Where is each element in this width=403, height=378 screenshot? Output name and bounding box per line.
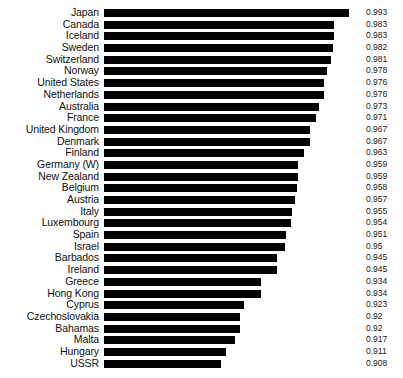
bar-value-label: 0.957 (366, 194, 403, 206)
bar-value-label: 0.971 (366, 112, 403, 124)
bar-track (104, 241, 403, 253)
bar (104, 325, 240, 333)
bar-category-label: Spain (0, 229, 99, 241)
bar-value-label: 0.967 (366, 136, 403, 148)
bar-track (104, 112, 403, 124)
bar (104, 196, 295, 204)
bar-value-label: 0.967 (366, 124, 403, 136)
bar (104, 231, 286, 239)
bar-track (104, 101, 403, 113)
bar-value-label: 0.983 (366, 19, 403, 31)
bar-category-label: Austria (0, 194, 99, 206)
bar-value-label: 0.973 (366, 101, 403, 113)
bar-chart: Japan0.993Canada0.983Iceland0.983Sweden0… (0, 0, 403, 378)
bar (104, 313, 240, 321)
bar-value-label: 0.934 (366, 276, 403, 288)
bar-row: Hungary0.911 (0, 346, 403, 358)
bar-track (104, 311, 403, 323)
bar-track (104, 217, 403, 229)
bar (104, 243, 285, 251)
bar-row: Australia0.973 (0, 101, 403, 113)
bar (104, 184, 297, 192)
bar-row: Czechoslovakia0.92 (0, 311, 403, 323)
bar-track (104, 182, 403, 194)
bar-row: Luxembourg0.954 (0, 217, 403, 229)
bar-row: Barbados0.945 (0, 252, 403, 264)
bar-value-label: 0.983 (366, 30, 403, 42)
bar-value-label: 0.908 (366, 358, 403, 370)
bar (104, 114, 316, 122)
bar-track (104, 136, 403, 148)
bar (104, 32, 334, 40)
bar-track (104, 288, 403, 300)
bar-value-label: 0.92 (366, 323, 403, 335)
bar-track (104, 147, 403, 159)
bar (104, 67, 327, 75)
bar-row: USSR0.908 (0, 358, 403, 370)
bar-category-label: United Kingdom (0, 124, 99, 136)
bar (104, 161, 298, 169)
bar-row: Germany (W)0.959 (0, 159, 403, 171)
bar-value-label: 0.963 (366, 147, 403, 159)
bar-category-label: USSR (0, 358, 99, 370)
bar-track (104, 206, 403, 218)
bar-rows-container: Japan0.993Canada0.983Iceland0.983Sweden0… (0, 7, 403, 369)
bar-row: Iceland0.983 (0, 30, 403, 42)
bar (104, 348, 226, 356)
bar-track (104, 229, 403, 241)
bar-row: Hong Kong0.934 (0, 288, 403, 300)
bar (104, 290, 261, 298)
bar-value-label: 0.911 (366, 346, 403, 358)
bar-category-label: Sweden (0, 42, 99, 54)
bar (104, 266, 277, 274)
bar-row: Ireland0.945 (0, 264, 403, 276)
bar-row: Canada0.983 (0, 19, 403, 31)
bar (104, 254, 277, 262)
bar (104, 301, 244, 309)
bar-row: Japan0.993 (0, 7, 403, 19)
bar-row: New Zealand0.959 (0, 171, 403, 183)
bar (104, 126, 310, 134)
bar-track (104, 7, 403, 19)
bar-track (104, 276, 403, 288)
bar-value-label: 0.951 (366, 229, 403, 241)
bar-track (104, 42, 403, 54)
bar-category-label: Czechoslovakia (0, 311, 99, 323)
bar-value-label: 0.959 (366, 159, 403, 171)
bar-category-label: Hungary (0, 346, 99, 358)
bar (104, 9, 349, 17)
bar (104, 79, 324, 87)
bar (104, 149, 304, 157)
bar-value-label: 0.95 (366, 241, 403, 253)
bar-track (104, 159, 403, 171)
bar-value-label: 0.976 (366, 77, 403, 89)
bar-track (104, 19, 403, 31)
bar-value-label: 0.945 (366, 252, 403, 264)
bar-value-label: 0.976 (366, 89, 403, 101)
bar-track (104, 77, 403, 89)
bar-track (104, 54, 403, 66)
bar (104, 360, 221, 368)
bar-value-label: 0.923 (366, 299, 403, 311)
bar-row: Greece0.934 (0, 276, 403, 288)
bar (104, 103, 319, 111)
bar-track (104, 346, 403, 358)
bar-row: Spain0.951 (0, 229, 403, 241)
bar (104, 173, 298, 181)
bar (104, 138, 310, 146)
bar-value-label: 0.981 (366, 54, 403, 66)
bar-track (104, 30, 403, 42)
bar (104, 208, 292, 216)
bar-value-label: 0.993 (366, 7, 403, 19)
bar-value-label: 0.917 (366, 334, 403, 346)
bar (104, 278, 261, 286)
bar (104, 336, 235, 344)
bar-value-label: 0.978 (366, 65, 403, 77)
bar (104, 219, 291, 227)
bar-track (104, 171, 403, 183)
bar-category-label: Netherlands (0, 89, 99, 101)
bar-track (104, 89, 403, 101)
bar-track (104, 358, 403, 370)
bar-row: Austria0.957 (0, 194, 403, 206)
bar-row: Netherlands0.976 (0, 89, 403, 101)
